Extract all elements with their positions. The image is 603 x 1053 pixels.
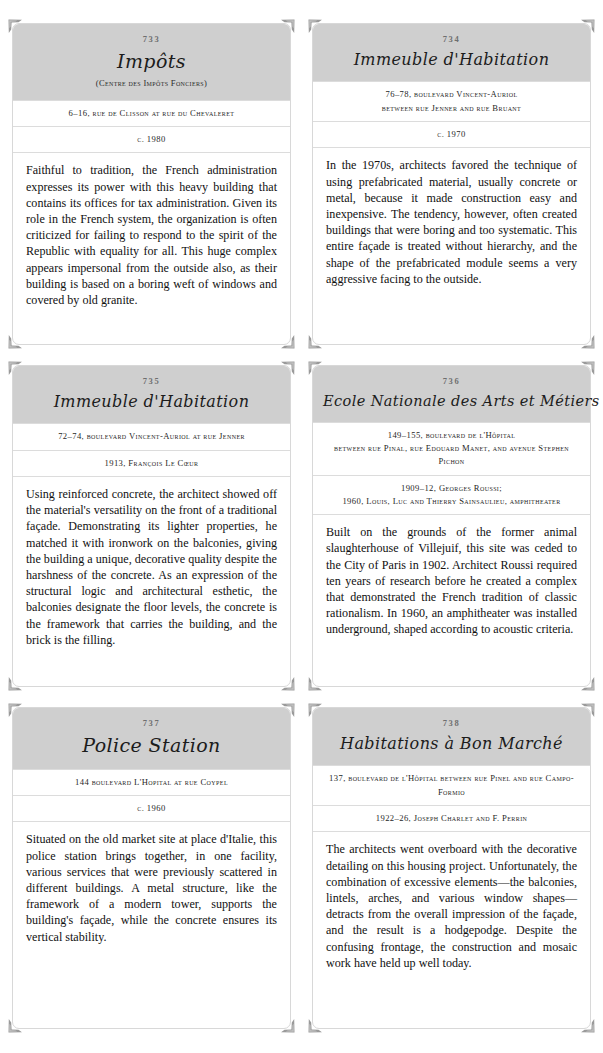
date-line: c. 1970: [325, 128, 578, 141]
card-description: In the 1970s, architects favored the tec…: [313, 147, 590, 344]
card-header: 734Immeuble d'Habitation: [313, 24, 590, 81]
entry-card: 737Police Station144 boulevard L'Hopital…: [12, 707, 291, 1029]
date-line: c. 1960: [25, 802, 278, 815]
entry-card: 733Impôts(Centre des Impôts Fonciers)6–1…: [12, 23, 291, 345]
card-subtitle: (Centre des Impôts Fonciers): [23, 78, 280, 88]
card-title: Impôts: [23, 51, 280, 73]
card-title: Police Station: [23, 735, 280, 757]
card-number: 734: [323, 34, 580, 44]
card-grid: 733Impôts(Centre des Impôts Fonciers)6–1…: [0, 0, 603, 1053]
entry-card: 735Immeuble d'Habitation72–74, boulevard…: [12, 365, 291, 687]
address-line: 72–74, boulevard Vincent-Auriol at rue J…: [25, 430, 278, 443]
card-description: Situated on the old market site at place…: [13, 821, 290, 1028]
card-title: Ecole Nationale des Arts et Métiers: [323, 393, 580, 410]
card-number: 736: [323, 376, 580, 386]
address-line: 149–155, boulevard de l'Hôpital: [325, 429, 578, 442]
address-line: between rue Jenner and rue Bruant: [325, 102, 578, 115]
address-line: 76–78, boulevard Vincent-Auriol: [325, 88, 578, 101]
address-line: 137, boulevard de l'Hôpital between rue …: [325, 772, 578, 799]
card-date-architect: 1909–12, Georges Roussi;1960, Louis, Luc…: [313, 475, 590, 515]
card-description: Built on the grounds of the former anima…: [313, 514, 590, 686]
card-description: Faithful to tradition, the French admini…: [13, 152, 290, 344]
card-address: 144 boulevard L'Hopital at rue Coypel: [13, 769, 290, 795]
card-description: Using reinforced concrete, the architect…: [13, 476, 290, 686]
entry-card: 738Habitations à Bon Marché137, boulevar…: [312, 707, 591, 1029]
card-address: 149–155, boulevard de l'Hôpitalbetween r…: [313, 422, 590, 475]
card-date-architect: c. 1970: [313, 121, 590, 147]
card-description: The architects went overboard with the d…: [313, 831, 590, 1028]
card-header: 737Police Station: [13, 708, 290, 769]
card-date-architect: 1913, François Le Cœur: [13, 450, 290, 476]
date-line: 1913, François Le Cœur: [25, 457, 278, 470]
address-line: 144 boulevard L'Hopital at rue Coypel: [25, 776, 278, 789]
date-line: 1922–26, Joseph Charlet and F. Perrin: [325, 812, 578, 825]
card-date-architect: c. 1980: [13, 126, 290, 152]
card-address: 137, boulevard de l'Hôpital between rue …: [313, 765, 590, 805]
card-number: 733: [23, 34, 280, 44]
entry-card: 734Immeuble d'Habitation76–78, boulevard…: [312, 23, 591, 345]
card-number: 737: [23, 718, 280, 728]
date-line: 1909–12, Georges Roussi;: [325, 482, 578, 495]
card-title: Immeuble d'Habitation: [23, 393, 280, 411]
card-address: 76–78, boulevard Vincent-Auriolbetween r…: [313, 81, 590, 121]
card-number: 738: [323, 718, 580, 728]
card-date-architect: c. 1960: [13, 795, 290, 821]
address-line: 6–16, rue de Clisson at rue du Chevalere…: [25, 107, 278, 120]
card-header: 735Immeuble d'Habitation: [13, 366, 290, 423]
entry-card: 736Ecole Nationale des Arts et Métiers14…: [312, 365, 591, 687]
card-date-architect: 1922–26, Joseph Charlet and F. Perrin: [313, 805, 590, 831]
card-address: 72–74, boulevard Vincent-Auriol at rue J…: [13, 423, 290, 449]
card-number: 735: [23, 376, 280, 386]
card-header: 733Impôts(Centre des Impôts Fonciers): [13, 24, 290, 100]
date-line: 1960, Louis, Luc and Thierry Sainsaulieu…: [325, 495, 578, 508]
card-header: 738Habitations à Bon Marché: [313, 708, 590, 765]
card-title: Habitations à Bon Marché: [323, 735, 580, 753]
card-header: 736Ecole Nationale des Arts et Métiers: [313, 366, 590, 422]
address-line: between rue Pinal, rue Edouard Manet, an…: [325, 442, 578, 469]
date-line: c. 1980: [25, 133, 278, 146]
card-address: 6–16, rue de Clisson at rue du Chevalere…: [13, 100, 290, 126]
card-title: Immeuble d'Habitation: [323, 51, 580, 69]
